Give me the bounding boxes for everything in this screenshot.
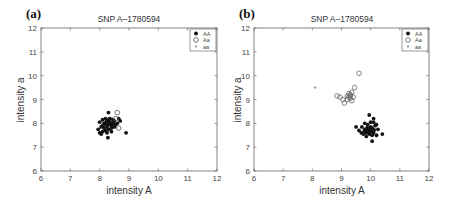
y-tick-label: 12 <box>241 24 250 33</box>
y-tick-label: 8 <box>246 119 251 128</box>
data-point <box>101 130 105 134</box>
data-point <box>98 120 102 124</box>
data-point <box>365 126 369 130</box>
legend-label: AA <box>415 31 423 37</box>
legend-label: aa <box>203 44 210 50</box>
y-tick-label: 6 <box>246 167 251 176</box>
series-aa <box>314 86 316 88</box>
legend-label: aa <box>415 44 422 50</box>
y-tick-label: 8 <box>33 119 38 128</box>
y-tick-label: 7 <box>33 143 38 152</box>
data-point <box>367 113 371 117</box>
data-point <box>96 127 100 131</box>
panel-a: (a) SNP A–1780594 intensity a intensity … <box>0 0 224 205</box>
plot-area-a: 67891011126789101112AAAaaa <box>0 0 224 205</box>
data-point <box>314 86 316 88</box>
legend: AAAaaa <box>402 29 428 51</box>
panel-b: (b) SNP A–1780594 intensity a intensity … <box>225 0 449 205</box>
data-point <box>372 120 376 124</box>
data-point <box>360 125 364 129</box>
y-tick-label: 10 <box>28 72 37 81</box>
y-tick-label: 11 <box>29 48 38 57</box>
legend-label: AA <box>203 31 211 37</box>
data-point <box>366 130 370 134</box>
data-point <box>110 130 114 134</box>
x-tick-label: 8 <box>97 174 102 183</box>
data-point <box>112 125 116 129</box>
data-point <box>372 128 376 132</box>
data-point <box>104 117 108 121</box>
legend-marker-aa <box>407 45 409 47</box>
x-tick-label: 10 <box>366 174 375 183</box>
data-point <box>380 132 384 136</box>
data-point <box>364 135 368 139</box>
legend-marker-aa <box>195 45 197 47</box>
y-tick-label: 7 <box>246 143 251 152</box>
legend: AAAaaa <box>190 29 216 51</box>
data-point <box>375 123 379 127</box>
data-point <box>99 125 103 129</box>
y-tick-label: 11 <box>242 48 251 57</box>
data-point <box>372 117 376 121</box>
x-tick-label: 7 <box>281 174 286 183</box>
plot-area-b: 67891011126789101112AAAaaa <box>225 0 449 205</box>
y-tick-label: 6 <box>33 167 38 176</box>
data-point <box>115 121 119 125</box>
x-tick-label: 8 <box>310 174 315 183</box>
data-point <box>107 117 111 121</box>
data-point <box>104 120 108 124</box>
legend-marker-AA <box>406 32 410 36</box>
data-point <box>376 127 380 131</box>
data-point <box>105 131 109 135</box>
legend-label: Aa <box>415 37 423 43</box>
legend-marker-AA <box>194 32 198 36</box>
data-point <box>106 136 110 140</box>
x-tick-label: 7 <box>68 174 73 183</box>
data-point <box>354 125 358 129</box>
y-tick-label: 9 <box>33 96 38 105</box>
x-tick-label: 6 <box>252 174 257 183</box>
y-tick-label: 10 <box>241 72 250 81</box>
legend-label: Aa <box>203 37 211 43</box>
data-point <box>109 121 113 125</box>
x-tick-label: 9 <box>339 174 344 183</box>
x-tick-label: 12 <box>425 174 434 183</box>
x-tick-label: 11 <box>396 174 405 183</box>
data-point <box>107 111 111 115</box>
data-point <box>375 133 379 137</box>
data-point <box>359 131 363 135</box>
y-tick-label: 12 <box>28 24 37 33</box>
x-tick-label: 10 <box>154 174 163 183</box>
data-point <box>370 139 374 143</box>
x-tick-label: 6 <box>39 174 44 183</box>
y-tick-label: 9 <box>246 96 251 105</box>
data-point <box>124 131 128 135</box>
data-point <box>363 121 367 125</box>
x-tick-label: 12 <box>213 174 222 183</box>
x-tick-label: 9 <box>127 174 132 183</box>
x-tick-label: 11 <box>184 174 193 183</box>
